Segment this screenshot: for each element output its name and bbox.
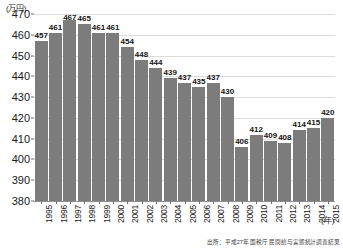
bar-slot: 406 <box>235 14 249 201</box>
bar[interactable] <box>192 87 205 201</box>
bar-value-label: 454 <box>120 38 133 46</box>
bar-slot: 454 <box>120 14 134 201</box>
x-axis-tick-label: 2010 <box>260 205 269 223</box>
x-axis-tick-mark <box>41 201 42 204</box>
bar-slot: 420 <box>321 14 335 201</box>
bar-value-label: 414 <box>292 121 305 129</box>
x-axis-tick-label: 1996 <box>60 205 69 223</box>
x-axis-tick-mark <box>299 201 300 204</box>
bar-slot: 412 <box>249 14 263 201</box>
bar[interactable] <box>35 41 48 201</box>
x-axis-tick-mark <box>170 201 171 204</box>
x-axis-tick-label: 1999 <box>103 205 112 223</box>
bar-slot: 467 <box>63 14 77 201</box>
x-axis-tick-label: 2000 <box>117 205 126 223</box>
x-axis-tick-mark <box>156 201 157 204</box>
x-axis-tick-label: 2007 <box>217 205 226 223</box>
bar[interactable] <box>106 33 119 201</box>
x-axis-tick-mark <box>285 201 286 204</box>
x-axis-tick-label: 2005 <box>189 205 198 223</box>
bar[interactable] <box>92 33 105 201</box>
bar-chart: (万円) 380390400410420430440450460470 4574… <box>0 0 343 249</box>
bar[interactable] <box>49 33 62 201</box>
x-axis-tick-mark <box>113 201 114 204</box>
y-axis-tick-label: 400 <box>12 154 30 165</box>
bar[interactable] <box>178 83 191 201</box>
y-axis-tick-label: 460 <box>12 29 30 40</box>
x-axis-tick-mark <box>256 201 257 204</box>
bar-value-label: 420 <box>321 109 334 117</box>
bar-value-label: 444 <box>149 59 162 67</box>
bar-slot: 414 <box>292 14 306 201</box>
bar-value-label: 465 <box>77 15 90 23</box>
y-axis-labels: 380390400410420430440450460470 <box>0 14 34 201</box>
x-axis-tick-mark <box>99 201 100 204</box>
x-axis-tick-label: 1997 <box>74 205 83 223</box>
y-axis-tick-label: 450 <box>12 50 30 61</box>
bar[interactable] <box>250 135 263 201</box>
source-note: 出所：平成27年 国税庁 民間給与実態統計調査結果 <box>207 238 340 246</box>
bar[interactable] <box>164 78 177 201</box>
bar-value-label: 439 <box>163 69 176 77</box>
x-axis-tick-label: 1998 <box>88 205 97 223</box>
y-axis-tick-label: 470 <box>12 9 30 20</box>
bar[interactable] <box>278 143 291 201</box>
bar-value-label: 457 <box>34 32 47 40</box>
x-axis-tick-mark <box>328 201 329 204</box>
x-axis-tick-mark <box>56 201 57 204</box>
x-axis-tick-mark <box>314 201 315 204</box>
bar[interactable] <box>235 147 248 201</box>
bar[interactable] <box>293 130 306 201</box>
bar-value-label: 437 <box>178 74 191 82</box>
bar-slot: 461 <box>91 14 105 201</box>
x-axis-unit-label: (年) <box>321 214 334 225</box>
plot-area: 4574614674654614614544484444394374354374… <box>34 14 335 201</box>
x-axis-tick-label: 2012 <box>289 205 298 223</box>
bar-slot: 465 <box>77 14 91 201</box>
bar-value-label: 415 <box>307 119 320 127</box>
bar-value-label: 461 <box>49 24 62 32</box>
x-axis-tick-mark <box>70 201 71 204</box>
bar-value-label: 409 <box>264 132 277 140</box>
y-axis-tick-label: 430 <box>12 92 30 103</box>
bar[interactable] <box>264 141 277 201</box>
y-axis-tick-label: 410 <box>12 133 30 144</box>
y-axis-tick-label: 440 <box>12 71 30 82</box>
bar-value-label: 435 <box>192 78 205 86</box>
bar-slot: 435 <box>192 14 206 201</box>
x-axis-tick-label: 2009 <box>246 205 255 223</box>
bar[interactable] <box>207 83 220 201</box>
x-axis-tick-label: 2001 <box>131 205 140 223</box>
bar-value-label: 437 <box>206 74 219 82</box>
x-axis-tick-label: 2003 <box>160 205 169 223</box>
x-axis-tick-mark <box>199 201 200 204</box>
x-axis-tick-label: 2004 <box>174 205 183 223</box>
bar[interactable] <box>149 68 162 201</box>
bar-value-label: 461 <box>106 24 119 32</box>
x-axis-tick-label: 2006 <box>203 205 212 223</box>
bar-slot: 415 <box>306 14 320 201</box>
bar-value-label: 461 <box>92 24 105 32</box>
x-axis-tick-mark <box>84 201 85 204</box>
bar-value-label: 412 <box>249 126 262 134</box>
x-axis-tick-mark <box>228 201 229 204</box>
bar-slot: 408 <box>278 14 292 201</box>
bar-slot: 430 <box>220 14 234 201</box>
bar[interactable] <box>121 47 134 201</box>
bar-value-label: 430 <box>221 88 234 96</box>
bar[interactable] <box>307 128 320 201</box>
bar[interactable] <box>78 24 91 201</box>
bar[interactable] <box>135 60 148 201</box>
bar-value-label: 408 <box>278 134 291 142</box>
bar-slot: 461 <box>106 14 120 201</box>
bar-series: 4574614674654614614544484444394374354374… <box>34 14 335 201</box>
y-axis-tick-label: 380 <box>12 196 30 207</box>
bar-slot: 461 <box>48 14 62 201</box>
bar-slot: 437 <box>177 14 191 201</box>
bar-value-label: 448 <box>135 51 148 59</box>
bar[interactable] <box>63 20 76 201</box>
bar-slot: 439 <box>163 14 177 201</box>
bar[interactable] <box>321 118 334 201</box>
bar[interactable] <box>221 97 234 201</box>
bar-value-label: 406 <box>235 138 248 146</box>
